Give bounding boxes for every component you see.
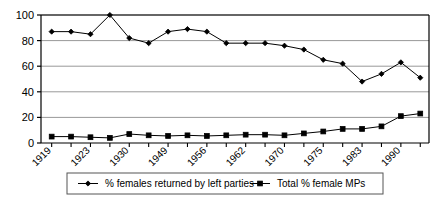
- data-point: [321, 129, 326, 134]
- x-axis-tick-label: 1930: [107, 144, 131, 168]
- data-point: [398, 114, 403, 119]
- data-point: [49, 29, 54, 34]
- data-point: [165, 29, 170, 34]
- x-axis-tick-label: 1970: [262, 144, 286, 168]
- data-series-layer: [49, 12, 423, 140]
- x-axis-tick-label: 1949: [146, 144, 170, 168]
- series-1: [49, 12, 423, 84]
- legend-item-1[interactable]: % females returned by left parties: [78, 178, 254, 189]
- data-point: [204, 29, 209, 34]
- data-point: [224, 133, 229, 138]
- data-point: [185, 133, 190, 138]
- y-axis-tick-label: 60: [22, 60, 34, 72]
- data-point: [68, 29, 73, 34]
- data-point: [166, 134, 171, 139]
- data-point: [49, 134, 54, 139]
- data-point: [282, 133, 287, 138]
- data-point: [107, 135, 112, 140]
- data-point: [88, 135, 93, 140]
- chart-container: 100806040200 191919231930194919561962197…: [0, 0, 446, 202]
- y-axis-tick-label: 100: [16, 9, 34, 21]
- data-point: [321, 57, 326, 62]
- x-axis-labels: 1919192319301949195619621970197519831990: [30, 144, 403, 168]
- data-point: [185, 26, 190, 31]
- series-2: [49, 111, 422, 140]
- data-point: [282, 43, 287, 48]
- line-chart: 100806040200 191919231930194919561962197…: [0, 0, 446, 202]
- legend-item-label: Total % female MPs: [277, 178, 365, 189]
- legend-item-label: % females returned by left parties: [105, 178, 254, 189]
- x-axis-tick-label: 1990: [379, 144, 403, 168]
- gridlines: [41, 15, 429, 117]
- x-axis-tick-label: 1983: [340, 144, 364, 168]
- data-point: [301, 47, 306, 52]
- data-point: [127, 132, 132, 137]
- data-point: [146, 41, 151, 46]
- data-point: [146, 133, 151, 138]
- series-line: [52, 15, 421, 82]
- data-point: [418, 111, 423, 116]
- x-axis-tick-label: 1962: [224, 144, 248, 168]
- data-point: [69, 134, 74, 139]
- y-axis-tick-label: 0: [28, 137, 34, 149]
- data-point: [243, 132, 248, 137]
- data-point: [204, 134, 209, 139]
- x-axis-tick-label: 1956: [185, 144, 209, 168]
- data-point: [224, 41, 229, 46]
- x-axis-ticks: [52, 143, 421, 147]
- data-point: [379, 71, 384, 76]
- data-point: [243, 41, 248, 46]
- y-axis-tick-label: 40: [22, 86, 34, 98]
- legend-marker-icon: [258, 181, 263, 186]
- axes: [41, 15, 429, 143]
- data-point: [301, 131, 306, 136]
- x-axis-tick-label: 1975: [301, 144, 325, 168]
- y-axis-labels: 100806040200: [16, 9, 41, 149]
- y-axis-tick-label: 80: [22, 35, 34, 47]
- data-point: [340, 127, 345, 132]
- data-point: [262, 41, 267, 46]
- data-point: [263, 132, 268, 137]
- data-point: [379, 124, 384, 129]
- data-point: [360, 127, 365, 132]
- x-axis-tick-label: 1923: [68, 144, 92, 168]
- y-axis-tick-label: 20: [22, 111, 34, 123]
- chart-legend: % females returned by left partiesTotal …: [67, 173, 383, 194]
